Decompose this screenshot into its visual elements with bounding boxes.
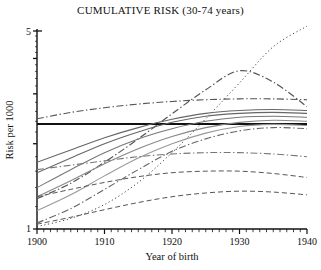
x-axis-label: Year of birth [145,251,199,262]
x-tick-label: 1900 [27,236,47,247]
x-tick-label: 1930 [230,236,250,247]
x-tick-label: 1910 [95,236,115,247]
y-tick-label-bottom: 1 [26,223,31,234]
axes-layer [33,29,307,234]
x-tick-label: 1940 [297,236,317,247]
series-layer [37,26,307,226]
series-line [37,124,307,210]
series-line [37,112,307,172]
plot-area: 5119001910192019301940Year of birthRisk … [0,0,321,270]
axis-labels-layer: 5119001910192019301940Year of birthRisk … [4,26,317,262]
y-axis-label: Risk per 1000 [4,101,15,160]
series-line [37,71,307,199]
series-line [37,120,307,196]
x-tick-label: 1920 [162,236,182,247]
y-tick-label-top: 5 [26,26,31,37]
chart-figure: CUMULATIVE RISK (30-74 years) 5119001910… [0,0,321,270]
series-line [37,191,307,224]
series-line [37,171,307,197]
series-line [37,128,307,223]
